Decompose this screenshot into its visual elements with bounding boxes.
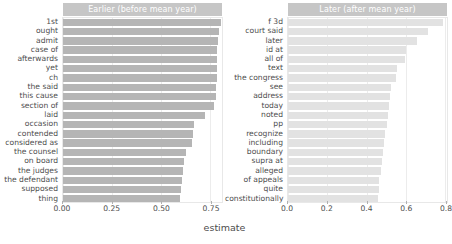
bar-row[interactable] xyxy=(63,83,222,92)
bar[interactable] xyxy=(288,186,379,193)
y-tick-label: case of xyxy=(0,45,58,54)
bar-row[interactable] xyxy=(288,46,447,55)
y-tick-label: recognize xyxy=(225,129,283,138)
bar-row[interactable] xyxy=(63,37,222,46)
bar[interactable] xyxy=(288,102,389,109)
bar[interactable] xyxy=(63,167,183,174)
bar-row[interactable] xyxy=(63,111,222,120)
bar-row[interactable] xyxy=(63,139,222,148)
bar[interactable] xyxy=(63,84,216,91)
y-tick-label: thing xyxy=(0,194,58,203)
bar[interactable] xyxy=(63,139,192,146)
y-tick-label: text xyxy=(225,63,283,72)
bar-row[interactable] xyxy=(288,176,447,185)
bar-row[interactable] xyxy=(288,139,447,148)
y-tick-label: see xyxy=(225,82,283,91)
bar-row[interactable] xyxy=(63,92,222,101)
bar-row[interactable] xyxy=(288,195,447,203)
bar-row[interactable] xyxy=(288,18,447,27)
bar[interactable] xyxy=(288,177,379,184)
bar-row[interactable] xyxy=(288,111,447,120)
bar-row[interactable] xyxy=(288,148,447,157)
bar[interactable] xyxy=(63,130,193,137)
bar-row[interactable] xyxy=(63,46,222,55)
bar-row[interactable] xyxy=(63,64,222,73)
bar[interactable] xyxy=(288,56,405,63)
bar-row[interactable] xyxy=(63,157,222,166)
bar[interactable] xyxy=(288,37,417,44)
bar[interactable] xyxy=(63,112,205,119)
bar[interactable] xyxy=(288,130,385,137)
y-tick-label: alleged xyxy=(225,166,283,175)
bar[interactable] xyxy=(288,46,406,53)
bar-row[interactable] xyxy=(288,130,447,139)
bar[interactable] xyxy=(63,195,180,202)
bar[interactable] xyxy=(288,139,384,146)
y-tick-label: yet xyxy=(0,63,58,72)
x-tick-label: 0.75 xyxy=(203,204,220,213)
bar-row[interactable] xyxy=(63,27,222,36)
bar-row[interactable] xyxy=(288,64,447,73)
bar-row[interactable] xyxy=(288,102,447,111)
bar-row[interactable] xyxy=(63,148,222,157)
y-tick-label: contended xyxy=(0,129,58,138)
bar-row[interactable] xyxy=(63,18,222,27)
bar-row[interactable] xyxy=(288,27,447,36)
plot-panel-later xyxy=(287,17,448,203)
bar-row[interactable] xyxy=(288,74,447,83)
bar-row[interactable] xyxy=(288,92,447,101)
facet-strip-earlier: Earlier (before mean year) xyxy=(62,2,223,17)
bar[interactable] xyxy=(288,93,390,100)
bar-row[interactable] xyxy=(288,157,447,166)
bar[interactable] xyxy=(288,74,396,81)
bar[interactable] xyxy=(63,56,217,63)
y-tick-label: noted xyxy=(225,110,283,119)
bar-row[interactable] xyxy=(63,130,222,139)
bar-row[interactable] xyxy=(288,167,447,176)
bar[interactable] xyxy=(63,158,184,165)
bar[interactable] xyxy=(288,65,397,72)
bar[interactable] xyxy=(288,19,443,26)
bar[interactable] xyxy=(63,65,217,72)
bar[interactable] xyxy=(63,74,217,81)
bar[interactable] xyxy=(288,195,378,202)
bar-row[interactable] xyxy=(63,176,222,185)
y-tick-label: the congress xyxy=(225,73,283,82)
bar[interactable] xyxy=(288,84,391,91)
bar[interactable] xyxy=(63,93,216,100)
y-tick-label: ought xyxy=(0,26,58,35)
bar-row[interactable] xyxy=(63,55,222,64)
y-tick-label: later xyxy=(225,36,283,45)
bar-row[interactable] xyxy=(63,185,222,194)
bar[interactable] xyxy=(288,149,383,156)
bar-row[interactable] xyxy=(63,195,222,203)
bar[interactable] xyxy=(63,37,218,44)
y-tick-label: ch xyxy=(0,73,58,82)
bar[interactable] xyxy=(63,121,194,128)
bar-row[interactable] xyxy=(288,55,447,64)
bar[interactable] xyxy=(63,19,221,26)
bar-row[interactable] xyxy=(288,185,447,194)
x-tick-label: 0.25 xyxy=(103,204,120,213)
bar[interactable] xyxy=(63,102,214,109)
bar[interactable] xyxy=(63,28,219,35)
bar[interactable] xyxy=(288,112,388,119)
bar[interactable] xyxy=(63,186,181,193)
bar-row[interactable] xyxy=(288,120,447,129)
bar[interactable] xyxy=(288,158,382,165)
bar[interactable] xyxy=(288,28,428,35)
x-tick-label: 0.0 xyxy=(281,204,293,213)
bar[interactable] xyxy=(63,46,217,53)
bar-row[interactable] xyxy=(63,74,222,83)
bar[interactable] xyxy=(288,121,387,128)
bar[interactable] xyxy=(63,149,186,156)
bar-row[interactable] xyxy=(63,102,222,111)
facet-strip-label-earlier: Earlier (before mean year) xyxy=(88,5,197,14)
bar-row[interactable] xyxy=(288,83,447,92)
bar-row[interactable] xyxy=(63,167,222,176)
bar[interactable] xyxy=(288,167,381,174)
bar-row[interactable] xyxy=(63,120,222,129)
bar[interactable] xyxy=(63,177,182,184)
bar-row[interactable] xyxy=(288,37,447,46)
x-axis-later: 0.00.20.40.60.8 xyxy=(287,204,448,218)
